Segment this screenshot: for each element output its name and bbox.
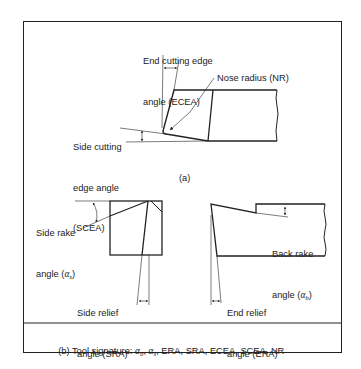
part-a-caption: (a) xyxy=(179,172,190,186)
back-rake-suffix: ) xyxy=(309,290,312,300)
tool-signature-caption: (b) Tool signature: αb, αs, ERA, SRA, EC… xyxy=(53,331,284,361)
ecea-label: End cutting edge angle (ECEA) xyxy=(143,28,213,123)
side-rake-label: Side rake angle (αs) xyxy=(36,200,75,298)
side-rake-suffix: ) xyxy=(72,269,75,279)
scea-label-line2: edge angle xyxy=(73,182,122,196)
side-relief-label-line1: Side relief xyxy=(77,307,128,321)
back-rake-label-line2: angle (αb) xyxy=(272,289,313,306)
ecea-label-line2: angle (ECEA) xyxy=(143,96,213,110)
scea-label-line1: Side cutting xyxy=(73,141,122,155)
signature-prefix: (b) Tool signature: xyxy=(58,346,135,356)
scea-label-line3: (SCEA) xyxy=(73,222,122,236)
back-rake-label: Back rake angle (αb) xyxy=(272,221,313,319)
signature-rest: , ERA, SRA, ECEA, SCEA, NR xyxy=(156,346,284,356)
scea-label: Side cutting edge angle (SCEA) xyxy=(73,114,122,249)
back-rake-label-line1: Back rake xyxy=(272,248,313,262)
side-rake-label-line2: angle (αs) xyxy=(36,268,75,285)
nose-radius-label: Nose radius (NR) xyxy=(217,72,289,86)
side-rake-label-line1: Side rake xyxy=(36,227,75,241)
ecea-label-line1: End cutting edge xyxy=(143,55,213,69)
end-relief-label-line1: End relief xyxy=(227,307,278,321)
side-rake-prefix: angle ( xyxy=(36,269,64,279)
